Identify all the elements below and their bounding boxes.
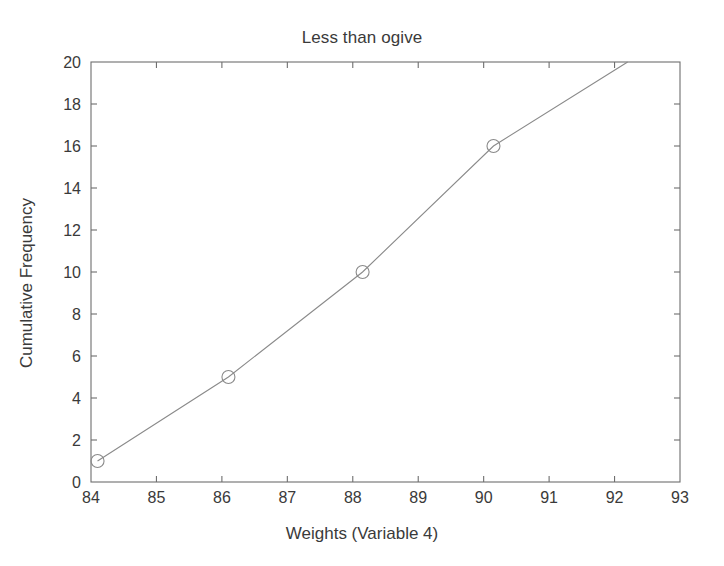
x-tick-label: 84 bbox=[82, 489, 100, 506]
x-tick-label: 89 bbox=[409, 489, 427, 506]
x-tick-label: 88 bbox=[344, 489, 362, 506]
ogive-line bbox=[98, 62, 628, 461]
y-tick-label: 4 bbox=[72, 390, 81, 407]
y-tick-label: 18 bbox=[63, 96, 81, 113]
y-tick-label: 10 bbox=[63, 264, 81, 281]
data-marker-group bbox=[91, 140, 500, 468]
figure-canvas: Less than ogive Cumulative Frequency Wei… bbox=[0, 0, 724, 566]
plot-area: 84858687888990919293 02468101214161820 bbox=[0, 0, 724, 566]
y-tick-label: 0 bbox=[72, 474, 81, 491]
y-tick-label: 16 bbox=[63, 138, 81, 155]
x-tick-label: 93 bbox=[671, 489, 689, 506]
axes-frame bbox=[91, 62, 680, 482]
y-tick-group: 02468101214161820 bbox=[63, 54, 680, 491]
axes-group bbox=[91, 62, 680, 482]
y-tick-label: 6 bbox=[72, 348, 81, 365]
x-tick-label: 86 bbox=[213, 489, 231, 506]
x-tick-label: 90 bbox=[475, 489, 493, 506]
y-tick-label: 20 bbox=[63, 54, 81, 71]
y-tick-label: 12 bbox=[63, 222, 81, 239]
y-tick-label: 2 bbox=[72, 432, 81, 449]
x-tick-group: 84858687888990919293 bbox=[82, 62, 689, 506]
x-tick-label: 92 bbox=[606, 489, 624, 506]
x-tick-label: 91 bbox=[540, 489, 558, 506]
data-series-group bbox=[98, 62, 628, 461]
x-tick-label: 87 bbox=[278, 489, 296, 506]
y-tick-label: 14 bbox=[63, 180, 81, 197]
x-tick-label: 85 bbox=[148, 489, 166, 506]
y-tick-label: 8 bbox=[72, 306, 81, 323]
